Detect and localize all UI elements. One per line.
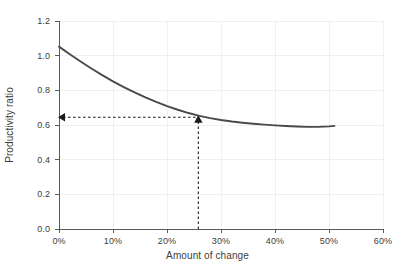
y-tick-label-0: 0.0	[28, 224, 50, 234]
x-tick-label-2: 20%	[158, 236, 176, 246]
y-tick-label-4: 0.8	[28, 85, 50, 95]
y-axis-title: Productivity ratio	[4, 87, 15, 163]
reference-annotation	[58, 113, 203, 229]
plot-canvas	[0, 0, 415, 273]
y-axis-ticks	[55, 21, 59, 229]
chart-figure: 0.0 0.2 0.4 0.6 0.8 1.0 1.2 0% 10% 20% 3…	[0, 0, 415, 273]
productivity-ratio-curve	[59, 47, 334, 127]
x-tick-label-5: 50%	[320, 236, 338, 246]
y-tick-label-1: 0.2	[28, 189, 50, 199]
x-axis-title: Amount of change	[0, 250, 415, 261]
x-axis-ticks	[59, 229, 383, 233]
y-tick-label-6: 1.2	[28, 16, 50, 26]
x-tick-label-1: 10%	[104, 236, 122, 246]
x-tick-label-4: 40%	[266, 236, 284, 246]
x-tick-label-3: 30%	[212, 236, 230, 246]
y-tick-label-3: 0.6	[28, 120, 50, 130]
x-tick-label-6: 60%	[374, 236, 392, 246]
y-tick-label-5: 1.0	[28, 51, 50, 61]
y-tick-label-2: 0.4	[28, 155, 50, 165]
x-tick-label-0: 0%	[52, 236, 65, 246]
